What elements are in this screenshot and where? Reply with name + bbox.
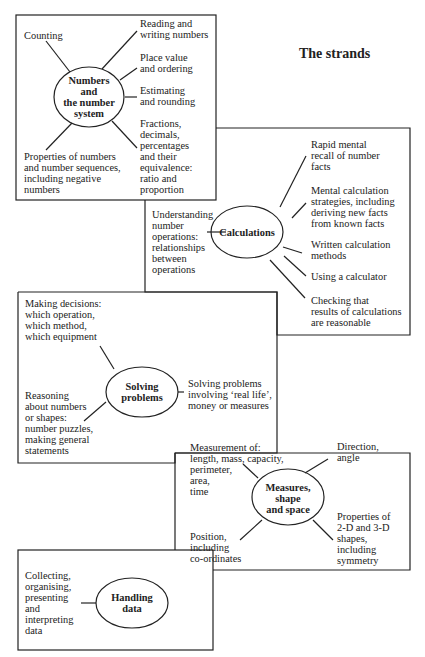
strand-calculations-title: Calculations [211, 220, 283, 244]
item-counting: Counting [24, 30, 63, 41]
strand-solving-title: Solving problems [106, 379, 178, 405]
item-mental-strategies: Mental calculation strategies, including… [311, 185, 395, 229]
item-rapid-recall: Rapid mental recall of number facts [311, 139, 380, 172]
item-calculator: Using a calculator [311, 271, 387, 282]
item-estimating: Estimating and rounding [140, 85, 195, 107]
item-collecting: Collecting, organising, presenting and i… [25, 570, 73, 636]
item-making-decisions: Making decisions: which operation, which… [25, 298, 101, 342]
item-measurement: Measurement of: length, mass, capacity, … [190, 442, 284, 497]
strand-numbers-title: Numbers and the number system [54, 69, 124, 125]
item-properties-numbers: Properties of numbers and number sequenc… [24, 151, 121, 195]
item-position: Position, including co-ordinates [190, 531, 241, 564]
item-properties-shapes: Properties of 2-D and 3-D shapes, includ… [337, 511, 390, 566]
strand-handling-title: Handling data [96, 590, 168, 616]
diagram-title: The strands [299, 46, 370, 62]
item-place-value: Place value and ordering [140, 52, 193, 74]
item-understanding-operations: Understanding number operations: relatio… [152, 209, 213, 275]
item-written-methods: Written calculation methods [311, 239, 391, 261]
item-reasoning: Reasoning about numbers or shapes: numbe… [25, 390, 93, 456]
item-real-life: Solving problems involving ‘real life’, … [188, 378, 272, 411]
item-fractions: Fractions, decimals, percentages and the… [140, 118, 193, 195]
item-direction: Direction, angle [337, 441, 379, 463]
item-reading-writing: Reading and writing numbers [140, 18, 208, 40]
item-checking: Checking that results of calculations ar… [311, 295, 402, 328]
